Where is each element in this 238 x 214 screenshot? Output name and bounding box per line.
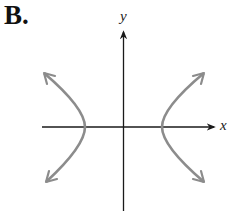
hyperbola-graph	[0, 0, 238, 214]
